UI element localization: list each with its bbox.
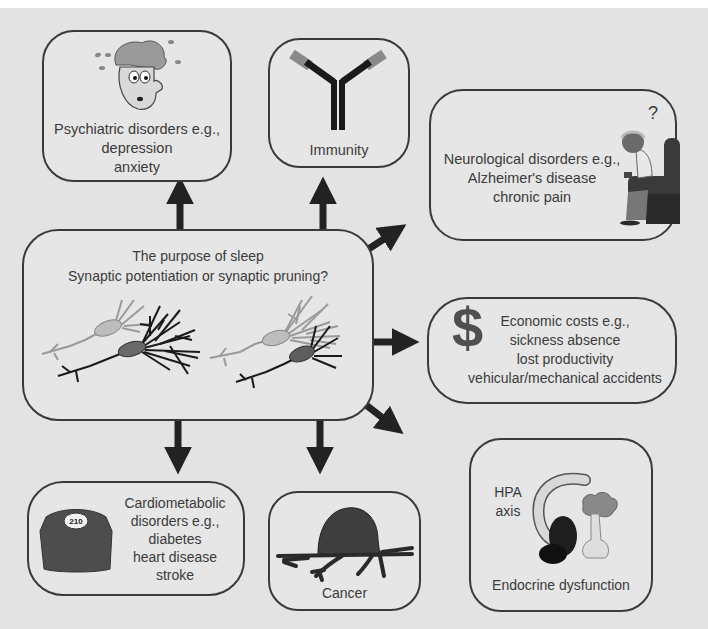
neuron-pairs-icon [40, 296, 360, 406]
immunity-label: Immunity [268, 141, 410, 160]
cardiometabolic-line-3: diabetes [110, 530, 240, 548]
economic-line-4: vehicular/mechanical accidents [465, 369, 665, 388]
hpa-line-1: HPA [488, 483, 528, 502]
cardiometabolic-line-2: disorders e.g., [110, 512, 240, 530]
economic-line-1: Economic costs e.g., [465, 312, 665, 331]
endocrine-text: Endocrine dysfunction [469, 576, 653, 595]
cancer-text: Cancer [268, 584, 421, 603]
weighing-scale-icon: 210 [40, 503, 115, 578]
cancer-label: Cancer [268, 584, 421, 603]
cardiometabolic-line-1: Cardiometabolic [110, 494, 240, 512]
center-subtitle: Synaptic potentiation or synaptic prunin… [22, 266, 374, 286]
economic-text: Economic costs e.g., sickness absence lo… [465, 312, 665, 388]
psychiatric-line-1: Psychiatric disorders e.g., [42, 120, 232, 139]
psychiatric-line-2: depression [42, 139, 232, 158]
anxious-face-icon [90, 35, 190, 115]
psychiatric-text: Psychiatric disorders e.g., depression a… [42, 120, 232, 177]
cardiometabolic-line-5: stroke [110, 566, 240, 584]
neurological-text: Neurological disorders e.g., Alzheimer's… [432, 150, 632, 207]
neurological-line-3: chronic pain [432, 188, 632, 207]
antibody-icon [288, 46, 388, 136]
hpa-axis-icon [525, 470, 645, 570]
neurological-line-2: Alzheimer's disease [432, 169, 632, 188]
scale-reading: 210 [69, 517, 83, 526]
center-text: The purpose of sleep Synaptic potentiati… [22, 246, 374, 286]
neurological-line-1: Neurological disorders e.g., [432, 150, 632, 169]
arrow-down-right-endocrine [366, 405, 388, 422]
endocrine-label: Endocrine dysfunction [469, 576, 653, 595]
tumor-icon [272, 500, 422, 580]
hpa-line-2: axis [488, 502, 528, 521]
cardiometabolic-text: Cardiometabolic disorders e.g., diabetes… [110, 494, 240, 584]
hpa-axis-label: HPA axis [488, 483, 528, 521]
economic-line-2: sickness absence [465, 331, 665, 350]
immunity-text: Immunity [268, 141, 410, 160]
economic-line-3: lost productivity [465, 350, 665, 369]
elderly-man-armchair-icon [608, 120, 688, 230]
psychiatric-line-3: anxiety [42, 158, 232, 177]
center-title: The purpose of sleep [22, 246, 374, 266]
cardiometabolic-line-4: heart disease [110, 548, 240, 566]
